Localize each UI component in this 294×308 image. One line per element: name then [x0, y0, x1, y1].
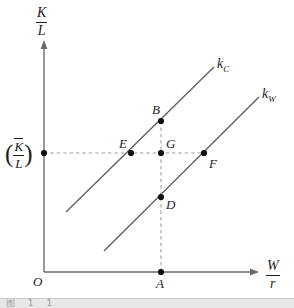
- point-marker-F[interactable]: [201, 150, 207, 156]
- y-axis-label-numerator: K: [36, 6, 47, 20]
- x-axis-label-denominator: r: [269, 277, 276, 291]
- x-axis-label-numerator: W: [266, 259, 280, 273]
- y-tick-open-paren: (: [5, 141, 13, 166]
- curve-label-kW: kW: [262, 86, 276, 104]
- point-label-E: E: [119, 137, 127, 150]
- y-tick-close-paren: ): [24, 141, 32, 166]
- x-axis-arrow-icon: [250, 269, 259, 276]
- cropped-caption-text: 图 1 1: [6, 298, 57, 308]
- curve-kC[interactable]: [66, 67, 214, 212]
- y-axis-arrow-icon: [41, 40, 48, 49]
- curve-label-kC: kC: [217, 56, 229, 74]
- point-label-F: F: [209, 157, 217, 170]
- y-tick-label: ( K L ): [5, 138, 33, 170]
- y-tick-numerator: K: [14, 138, 23, 153]
- curve-label-kW-subscript: W: [268, 94, 276, 104]
- point-marker-A[interactable]: [158, 269, 164, 275]
- axes-group: [41, 40, 259, 275]
- point-label-B: B: [152, 103, 160, 116]
- curves-group: [66, 67, 259, 251]
- y-tick-denominator: L: [15, 157, 22, 170]
- point-marker-G[interactable]: [158, 150, 164, 156]
- point-marker-y-tick: [41, 150, 47, 156]
- point-marker-D[interactable]: [158, 194, 164, 200]
- point-label-G: G: [166, 137, 175, 150]
- x-axis-label: W r: [266, 259, 280, 291]
- origin-label: O: [33, 275, 42, 288]
- point-label-D: D: [166, 198, 175, 211]
- diagram-canvas: [0, 0, 294, 308]
- point-label-A: A: [156, 277, 164, 290]
- y-axis-label-denominator: L: [37, 24, 47, 38]
- y-axis-label: K L: [36, 6, 47, 38]
- economics-diagram: K L W r ( K L ) O kC kW B E G F D A 图 1 …: [0, 0, 294, 308]
- curve-kW[interactable]: [104, 97, 259, 251]
- cropped-caption-strip: 图 1 1: [0, 298, 294, 308]
- y-tick-fraction: K L: [13, 138, 24, 170]
- point-marker-B[interactable]: [158, 118, 164, 124]
- point-marker-E[interactable]: [128, 150, 134, 156]
- curve-label-kC-subscript: C: [223, 64, 229, 74]
